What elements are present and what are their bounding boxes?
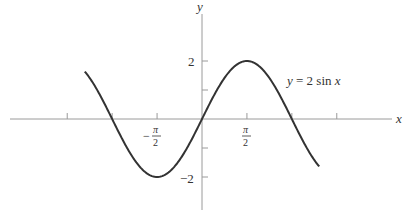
equation-label: y = 2 sin x [285,73,341,88]
sine-chart: y x 2 −2 − π 2 π 2 y = 2 sin x [0,0,403,214]
x-tick-label-neg-pi-over-2: − π 2 [143,124,161,148]
svg-text:π: π [243,124,249,135]
x-tick-label-pi-over-2: π 2 [242,124,251,148]
svg-text:2: 2 [153,137,158,148]
svg-text:π: π [153,124,159,135]
y-tick-label-2: 2 [188,54,195,69]
y-axis-label: y [195,0,203,14]
svg-text:2: 2 [243,137,248,148]
y-tick-label-neg2: −2 [180,171,194,186]
svg-text:−: − [143,129,150,143]
x-axis-label: x [395,111,402,126]
